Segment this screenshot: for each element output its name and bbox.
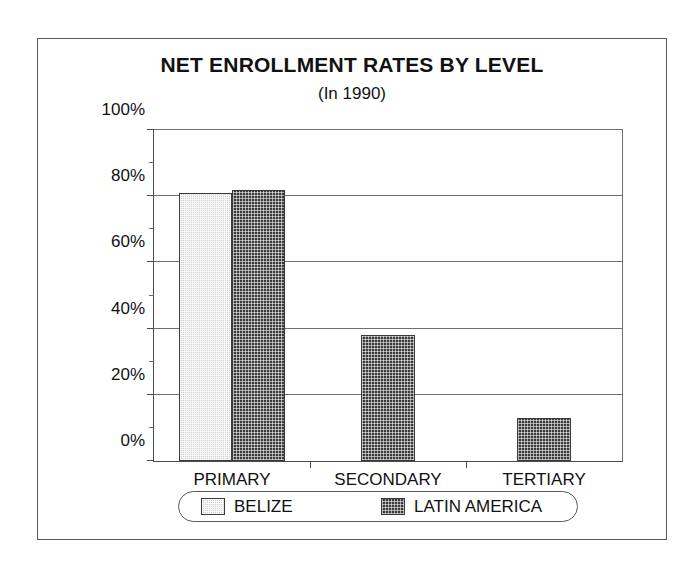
bar-secondary-latin-america: [361, 335, 414, 461]
y-axis-tick-label: 80%: [111, 166, 145, 186]
legend-entry-latin-america[interactable]: LATIN AMERICA: [381, 497, 542, 517]
legend-swatch-belize-icon: [201, 498, 225, 515]
y-axis-tick-label: 100%: [102, 100, 145, 120]
y-axis-tick-label: 0%: [120, 431, 145, 451]
y-axis-tick-mark: [147, 129, 154, 130]
y-axis-tick-mark: [147, 195, 154, 196]
chart-title: NET ENROLLMENT RATES BY LEVEL: [38, 53, 666, 77]
y-axis-tick-mark: [147, 328, 154, 329]
legend-entry-belize[interactable]: BELIZE: [201, 497, 293, 517]
plot-area: 0%20%40%60%80%100% PRIMARYSECONDARYTERTI…: [153, 129, 623, 462]
y-axis-tick-label: 20%: [111, 365, 145, 385]
y-axis-tick-mark: [147, 460, 154, 461]
chart-frame: NET ENROLLMENT RATES BY LEVEL (In 1990) …: [37, 38, 667, 540]
y-axis-minor-tick: [149, 361, 154, 362]
bar-tertiary-latin-america: [517, 418, 570, 461]
y-axis-minor-tick: [149, 162, 154, 163]
x-axis-category-label: PRIMARY: [193, 470, 270, 490]
bar-primary-belize: [179, 193, 232, 461]
y-axis-minor-tick: [149, 228, 154, 229]
x-axis-separator: [310, 461, 311, 468]
bar-primary-latin-america: [232, 190, 285, 461]
legend-label: BELIZE: [234, 497, 293, 517]
y-axis-tick-mark: [147, 261, 154, 262]
chart-legend[interactable]: BELIZELATIN AMERICA: [178, 491, 578, 522]
y-axis-tick-label: 60%: [111, 232, 145, 252]
y-axis-tick-mark: [147, 394, 154, 395]
legend-label: LATIN AMERICA: [414, 497, 542, 517]
x-axis-separator: [466, 461, 467, 468]
y-axis-minor-tick: [149, 295, 154, 296]
legend-swatch-latin-america-icon: [381, 498, 405, 515]
y-axis-tick-label: 40%: [111, 299, 145, 319]
x-axis-category-label: TERTIARY: [502, 470, 585, 490]
x-axis-category-label: SECONDARY: [334, 470, 441, 490]
y-axis-minor-tick: [149, 427, 154, 428]
